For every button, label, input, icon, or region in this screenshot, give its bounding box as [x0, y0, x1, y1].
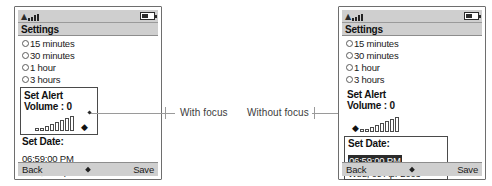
set-alert-volume-group[interactable]: Set Alert Volume : 0 ◆: [20, 87, 98, 135]
battery-icon: [140, 12, 155, 20]
option-label: 1 hour: [354, 62, 380, 73]
volume-bar-6: [385, 121, 389, 132]
signal-bars-icon: ▲: [21, 12, 39, 21]
volume-bar-5: [55, 122, 59, 131]
leader-line-with-focus: [90, 113, 175, 114]
leader-line-without-focus: [312, 113, 338, 114]
set-date-label: Set Date:: [22, 136, 132, 148]
volume-bar-5: [380, 123, 384, 132]
option-label: 30 minutes: [354, 50, 398, 61]
volume-bar-3: [45, 126, 49, 131]
option-row-1-hour[interactable]: 1 hour: [346, 62, 478, 73]
option-row-15-minutes[interactable]: 15 minutes: [22, 38, 154, 49]
phone-screen: ▲ Settings 15 minutes 30 minutes 1 hour …: [342, 10, 482, 176]
volume-bar-8: [395, 117, 399, 132]
volume-bar-8: [70, 116, 74, 131]
radio-icon[interactable]: [346, 40, 353, 47]
option-label: 15 minutes: [354, 38, 398, 49]
radio-icon[interactable]: [346, 52, 353, 59]
page-title: Settings: [18, 23, 158, 36]
option-row-15-minutes[interactable]: 15 minutes: [346, 38, 478, 49]
volume-bar-7: [390, 119, 394, 132]
volume-bar-2: [365, 129, 369, 132]
volume-bar-4: [375, 125, 379, 132]
status-bar: ▲: [18, 10, 158, 23]
alert-title-line2: Volume : 0: [347, 100, 446, 111]
settings-body: 15 minutes 30 minutes 1 hour 3 hours Set…: [342, 36, 482, 162]
set-alert-volume-group[interactable]: Set Alert Volume : 0 ◆: [346, 87, 446, 135]
alert-title-line2: Volume : 0: [24, 101, 97, 112]
alert-title-line1: Set Alert: [347, 89, 446, 100]
annotation-with-focus: With focus: [180, 107, 228, 118]
option-label: 3 hours: [354, 74, 384, 85]
set-date-label: Set Date:: [348, 138, 447, 150]
option-row-3-hours[interactable]: 3 hours: [22, 74, 154, 85]
leader-tick-without-focus: [314, 107, 315, 119]
back-button[interactable]: Back: [22, 164, 42, 175]
phone-without-focus: ▲ Settings 15 minutes 30 minutes 1 hour …: [338, 6, 486, 180]
battery-icon: [464, 12, 479, 20]
radio-icon[interactable]: [22, 76, 29, 83]
radio-icon[interactable]: [346, 64, 353, 71]
settings-body: 15 minutes 30 minutes 1 hour 3 hours Set…: [18, 36, 158, 162]
option-label: 3 hours: [30, 74, 60, 85]
option-row-30-minutes[interactable]: 30 minutes: [346, 50, 478, 61]
radio-icon[interactable]: [346, 76, 353, 83]
volume-bar-1: [35, 128, 39, 131]
volume-slider[interactable]: [360, 116, 400, 132]
volume-bar-2: [40, 128, 44, 131]
option-label: 30 minutes: [30, 50, 74, 61]
alert-title-line1: Set Alert: [24, 90, 97, 101]
softkey-bar: Back Save: [18, 162, 158, 176]
leader-tick-with-focus: [165, 107, 166, 119]
option-label: 1 hour: [30, 62, 56, 73]
radio-icon[interactable]: [22, 40, 29, 47]
radio-icon[interactable]: [22, 52, 29, 59]
option-row-1-hour[interactable]: 1 hour: [22, 62, 154, 73]
option-label: 15 minutes: [30, 38, 74, 49]
back-button[interactable]: Back: [346, 164, 366, 175]
diamond-icon: [85, 166, 91, 172]
volume-bar-4: [50, 124, 54, 131]
page-title: Settings: [342, 23, 482, 36]
save-button[interactable]: Save: [133, 164, 154, 175]
volume-slider[interactable]: [35, 115, 75, 131]
save-button[interactable]: Save: [457, 164, 478, 175]
softkey-bar: Back Save: [342, 162, 482, 176]
diamond-icon: [409, 166, 415, 172]
volume-bar-6: [60, 120, 64, 131]
radio-icon[interactable]: [22, 64, 29, 71]
phone-with-focus: ▲ Settings 15 minutes 30 minutes 1 hour …: [14, 6, 162, 180]
volume-bar-3: [370, 127, 374, 132]
status-bar: ▲: [342, 10, 482, 23]
volume-bar-1: [360, 129, 364, 132]
signal-bars-icon: ▲: [345, 12, 363, 21]
volume-caret-icon: ◆: [352, 124, 359, 133]
phone-screen: ▲ Settings 15 minutes 30 minutes 1 hour …: [18, 10, 158, 176]
volume-caret-icon: ◆: [81, 123, 88, 132]
annotation-without-focus: Without focus: [247, 107, 309, 118]
option-row-30-minutes[interactable]: 30 minutes: [22, 50, 154, 61]
volume-bar-7: [65, 118, 69, 131]
option-row-3-hours[interactable]: 3 hours: [346, 74, 478, 85]
